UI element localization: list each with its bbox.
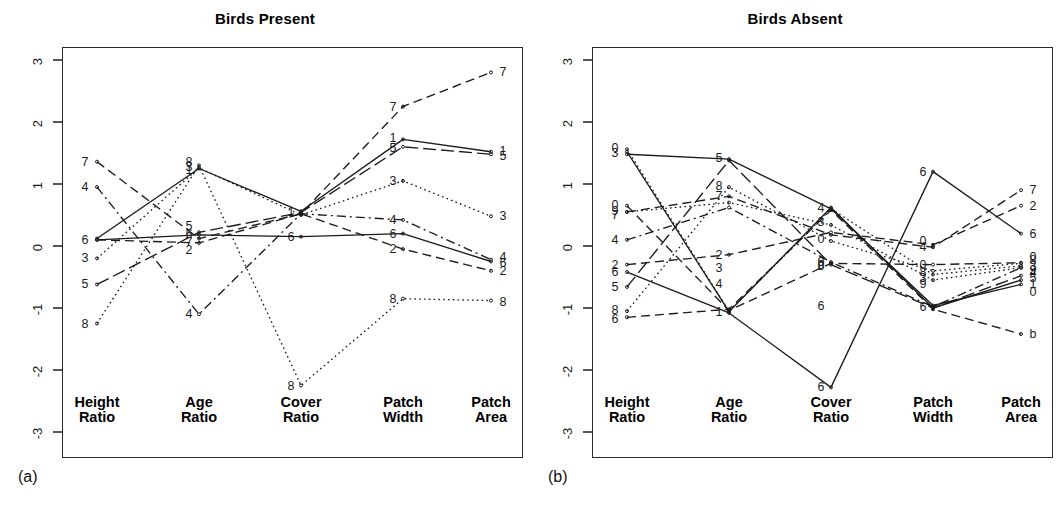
point-label-4: 4 — [920, 241, 927, 254]
point-label-7: 7 — [500, 66, 507, 79]
point-label-5: 5 — [716, 152, 723, 165]
point-label-5: 5 — [500, 150, 507, 163]
point-label-3: 3 — [612, 147, 619, 160]
panel-b-axis-label-patch-area: Patch Area — [973, 395, 1060, 425]
point-label-6: 6 — [1030, 227, 1037, 240]
point-label-2: 2 — [716, 248, 723, 261]
point-label-6: 6 — [390, 227, 397, 240]
panel-b-axis-label-patch-width: Patch Width — [885, 395, 981, 425]
panel-a-ytick-3: 3 — [30, 49, 45, 75]
point-label-b: b — [1030, 328, 1037, 341]
point-label-7: 7 — [1030, 184, 1037, 197]
point-label-4: 4 — [390, 214, 397, 227]
point-label-2: 2 — [186, 243, 193, 256]
panel-a-axis-label-patch-width: Patch Width — [355, 395, 451, 425]
point-label-5: 5 — [390, 142, 397, 155]
panel-a-axis-label-cover-ratio: Cover Ratio — [253, 395, 349, 425]
panel-a-title: Birds Present — [0, 10, 530, 27]
point-label-5: 5 — [612, 281, 619, 294]
panel-b-ytick-m2: -2 — [560, 359, 575, 385]
point-label-1: 1 — [716, 305, 723, 318]
panel-a-ytick-m3: -3 — [30, 421, 45, 447]
panel-birds-absent: Birds Absent 3 2 1 0 -1 -2 -3 Height Rat… — [530, 0, 1060, 531]
panel-b-ytick-0: 0 — [560, 235, 575, 261]
point-label-8: 8 — [500, 296, 507, 309]
point-label-1: 1 — [288, 206, 295, 219]
point-label-6: 6 — [612, 313, 619, 326]
point-label-8: 8 — [82, 317, 89, 330]
panel-b-ytick-m3: -3 — [560, 421, 575, 447]
point-label-7: 7 — [82, 155, 89, 168]
point-label-4: 4 — [186, 308, 193, 321]
point-label-4: 4 — [818, 201, 825, 214]
panel-b-ytick-m1: -1 — [560, 297, 575, 323]
panel-b-ytick-2: 2 — [560, 111, 575, 137]
point-label-1: 1 — [186, 164, 193, 177]
point-label-6: 6 — [920, 165, 927, 178]
panel-a-tag: (a) — [18, 468, 38, 486]
point-label-8: 8 — [288, 379, 295, 392]
point-label-6: 6 — [920, 301, 927, 314]
panel-a-axis-label-height-ratio: Height Ratio — [49, 395, 145, 425]
point-label-3: 3 — [818, 216, 825, 229]
point-label-8: 8 — [818, 260, 825, 273]
panel-b-axis-label-height-ratio: Height Ratio — [579, 395, 675, 425]
panel-b-axis-label-cover-ratio: Cover Ratio — [783, 395, 879, 425]
panel-a-axis-label-age-ratio: Age Ratio — [151, 395, 247, 425]
point-label-6: 6 — [82, 234, 89, 247]
point-label-6: 6 — [818, 299, 825, 312]
parallel-coordinates-figure: Birds Present 3 2 1 0 -1 -2 -3 Height Ra… — [0, 0, 1060, 531]
point-label-0: 0 — [818, 232, 825, 245]
point-label-6: 6 — [818, 381, 825, 394]
panel-a-ytick-0: 0 — [30, 235, 45, 261]
point-label-7: 7 — [390, 100, 397, 113]
point-label-3: 3 — [82, 252, 89, 265]
panel-a-ytick-m1: -1 — [30, 297, 45, 323]
point-label-2: 2 — [1030, 199, 1037, 212]
point-label-6: 6 — [612, 266, 619, 279]
panel-b-ytick-3: 3 — [560, 49, 575, 75]
panel-b-tag: (b) — [548, 468, 568, 486]
point-label-3: 3 — [500, 210, 507, 223]
point-label-7: 7 — [716, 190, 723, 203]
point-label-7: 7 — [612, 209, 619, 222]
point-label-8: 8 — [390, 292, 397, 305]
panel-b-title: Birds Absent — [530, 10, 1060, 27]
point-label-9: 9 — [920, 278, 927, 291]
panel-a-ytick-2: 2 — [30, 111, 45, 137]
point-label-3: 3 — [390, 175, 397, 188]
panel-a-ytick-1: 1 — [30, 173, 45, 199]
panel-a-ytick-m2: -2 — [30, 359, 45, 385]
point-label-4: 4 — [612, 234, 619, 247]
point-label-3: 3 — [716, 261, 723, 274]
point-label-4: 4 — [716, 278, 723, 291]
panel-b-axis-label-age-ratio: Age Ratio — [681, 395, 777, 425]
point-label-2: 2 — [500, 265, 507, 278]
panel-birds-present: Birds Present 3 2 1 0 -1 -2 -3 Height Ra… — [0, 0, 530, 531]
panel-b-ytick-1: 1 — [560, 173, 575, 199]
point-label-5: 5 — [82, 278, 89, 291]
point-label-2: 2 — [390, 243, 397, 256]
panel-a-axis-label-patch-area: Patch Area — [443, 395, 539, 425]
point-label-0: 0 — [1030, 286, 1037, 299]
point-label-6: 6 — [288, 230, 295, 243]
point-label-4: 4 — [82, 181, 89, 194]
